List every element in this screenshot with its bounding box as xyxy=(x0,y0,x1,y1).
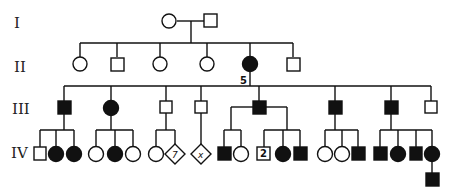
female-unaffected-II-3 xyxy=(153,57,167,71)
generation-II: 5 xyxy=(73,57,300,87)
diamond-count-label: 7 xyxy=(172,150,178,160)
female-unaffected-IV xyxy=(318,147,333,162)
female-unaffected-I-1 xyxy=(162,14,176,28)
generation-III xyxy=(58,101,437,116)
male-unaffected-I-2 xyxy=(204,14,217,27)
male-affected-V xyxy=(426,173,439,186)
female-affected-IV xyxy=(67,147,82,162)
female-unaffected-IV xyxy=(126,147,141,162)
female-affected-IV xyxy=(49,147,64,162)
male-unaffected-III-8 xyxy=(425,101,437,113)
square-count-label: 2 xyxy=(260,148,267,159)
female-unaffected-IV xyxy=(149,147,164,162)
male-affected-IV xyxy=(410,147,422,160)
diamond-unknown-label: x xyxy=(197,150,204,160)
generation-label-III: III xyxy=(12,100,30,118)
generation-I xyxy=(162,14,217,43)
male-affected-IV xyxy=(218,147,231,160)
male-affected-IV xyxy=(294,147,307,160)
male-unaffected-IV xyxy=(34,147,46,160)
male-affected-III-6 xyxy=(329,101,342,114)
female-unaffected-IV xyxy=(335,147,350,162)
male-affected-IV xyxy=(352,147,365,160)
female-unaffected-II-1 xyxy=(73,57,87,71)
generation-label-I: I xyxy=(14,14,20,32)
female-affected-IV xyxy=(108,147,123,162)
female-unaffected-IV xyxy=(234,147,249,162)
generation-label-IV: IV xyxy=(11,144,29,162)
female-affected-IV xyxy=(425,147,440,162)
male-affected-III-1 xyxy=(58,101,71,114)
male-affected-IV xyxy=(374,147,387,160)
female-affected-III-2 xyxy=(104,101,119,116)
female-unaffected-II-4 xyxy=(200,57,214,71)
male-unaffected-III-3 xyxy=(160,101,172,113)
male-unaffected-II-2 xyxy=(111,58,124,71)
female-affected-IV xyxy=(276,147,291,162)
pedigree-diagram: I II III IV 5 xyxy=(0,0,453,194)
female-affected-IV xyxy=(391,147,406,162)
female-unaffected-IV xyxy=(89,147,104,162)
male-unaffected-III-4 xyxy=(195,101,207,113)
female-affected-II-5 xyxy=(243,57,258,72)
individual-number-label: 5 xyxy=(240,75,247,86)
male-affected-III-7 xyxy=(385,101,398,114)
male-unaffected-II-6 xyxy=(287,58,300,71)
generation-IV: 7 x 2 xyxy=(34,144,440,186)
generation-label-II: II xyxy=(14,58,26,76)
